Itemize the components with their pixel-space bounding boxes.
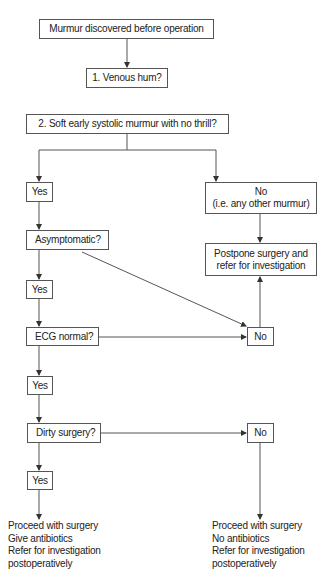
asymptomatic-label: Asymptomatic? <box>35 234 101 246</box>
outcome-with-antibiotics: Proceed with surgery Give antibiotics Re… <box>8 520 101 570</box>
postpone-surgery-node: Postpone surgery and refer for investiga… <box>205 243 317 276</box>
ecg-yes-node: Yes <box>27 376 53 395</box>
venous-hum-label: 1. Venous hum? <box>92 72 161 84</box>
ecg-no-node: No <box>247 327 274 346</box>
ecg-normal-label: ECG normal? <box>35 331 93 343</box>
dirty-yes-node: Yes <box>27 471 53 490</box>
systolic-no-label: No (i.e. any other murmur) <box>212 186 309 210</box>
outcome-no-antibiotics: Proceed with surgery No antibiotics Refe… <box>212 520 305 570</box>
ecg-yes-label: Yes <box>32 380 48 392</box>
systolic-yes-label: Yes <box>32 186 48 198</box>
systolic-yes-node: Yes <box>26 182 53 202</box>
postpone-surgery-label: Postpone surgery and refer for investiga… <box>214 248 308 272</box>
start-node-label: Murmur discovered before operation <box>49 23 203 35</box>
ecg-no-label: No <box>254 331 266 343</box>
dirty-no-label: No <box>254 427 266 439</box>
ecg-normal-question: ECG normal? <box>26 327 99 346</box>
start-node: Murmur discovered before operation <box>39 19 214 39</box>
venous-hum-question: 1. Venous hum? <box>86 68 168 88</box>
dirty-surgery-question: Dirty surgery? <box>27 423 101 443</box>
systolic-murmur-question: 2. Soft early systolic murmur with no th… <box>26 114 229 134</box>
systolic-murmur-label: 2. Soft early systolic murmur with no th… <box>38 118 216 130</box>
asymptomatic-question: Asymptomatic? <box>26 230 109 250</box>
asymptomatic-yes-label: Yes <box>32 284 48 296</box>
dirty-yes-label: Yes <box>32 475 48 487</box>
dirty-no-node: No <box>247 423 274 443</box>
dirty-surgery-label: Dirty surgery? <box>36 427 95 439</box>
asymptomatic-yes-node: Yes <box>26 280 53 299</box>
systolic-no-node: No (i.e. any other murmur) <box>205 182 317 214</box>
